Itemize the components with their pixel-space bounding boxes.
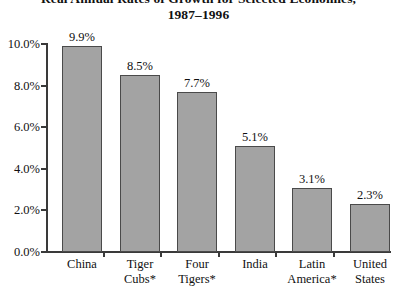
y-tick-label-10: 10.0% [0, 38, 40, 50]
y-tick-0 [41, 251, 47, 253]
chart-subtitle: 1987–1996 [0, 6, 397, 23]
category-label-india: India [228, 257, 282, 272]
y-tick-6 [41, 126, 47, 128]
bar-united-states[interactable] [350, 204, 390, 252]
y-axis-line [46, 43, 48, 253]
bar-value-china: 9.9% [57, 31, 107, 44]
chart-title-block: Real Annual Rates of Growth for Selected… [0, 0, 397, 23]
y-tick-label-4: 4.0% [0, 163, 40, 175]
category-label-united-states: United States [343, 257, 397, 286]
y-tick-4 [41, 168, 47, 170]
bar-value-four-tigers: 7.7% [172, 77, 222, 90]
bar-value-latin-america: 3.1% [287, 173, 337, 186]
bar-india[interactable] [235, 146, 275, 252]
y-tick-label-2: 2.0% [0, 204, 40, 216]
y-tick-8 [41, 85, 47, 87]
y-tick-label-0: 0.0% [0, 246, 40, 258]
category-label-china: China [55, 257, 109, 272]
y-tick-label-8: 8.0% [0, 80, 40, 92]
category-label-four-tigers: Four Tigers* [170, 257, 224, 286]
category-label-latin-america: Latin America* [285, 257, 339, 286]
y-tick-10 [41, 43, 47, 45]
bar-chart-figure: Real Annual Rates of Growth for Selected… [0, 0, 397, 288]
category-label-tiger-cubs: Tiger Cubs* [113, 257, 167, 286]
bar-latin-america[interactable] [292, 188, 332, 252]
y-tick-2 [41, 209, 47, 211]
y-axis-tick-labels: 0.0% 2.0% 4.0% 6.0% 8.0% 10.0% [0, 0, 40, 288]
bar-tiger-cubs[interactable] [120, 75, 160, 252]
bar-four-tigers[interactable] [177, 92, 217, 252]
bar-china[interactable] [62, 46, 102, 252]
bar-value-india: 5.1% [230, 131, 280, 144]
y-tick-label-6: 6.0% [0, 121, 40, 133]
bar-value-tiger-cubs: 8.5% [115, 60, 165, 73]
bar-value-united-states: 2.3% [345, 189, 395, 202]
